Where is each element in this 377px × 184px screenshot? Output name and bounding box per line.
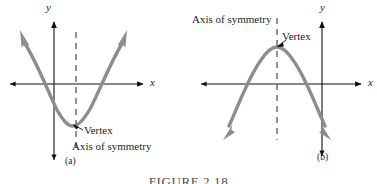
y-axis-label-b: y	[320, 2, 325, 13]
panel-tag-b: (b)	[317, 153, 328, 163]
parabola-curve-b	[223, 47, 331, 140]
figure-container: y x Vertex Axis of symmetry (a)	[0, 0, 377, 184]
y-axis-label-a: y	[46, 2, 51, 13]
parabola-curve-a	[20, 30, 127, 126]
axis-of-symmetry-label-b: Axis of symmetry	[192, 14, 271, 25]
panel-b-parabola-opening-downward: y x Axis of symmetry Vertex (b)	[187, 0, 377, 184]
figure-caption: FIGURE 2.18	[0, 174, 377, 184]
y-axis-a	[51, 22, 56, 160]
panel-tag-a: (a)	[65, 157, 76, 167]
axis-of-symmetry-label-a: Axis of symmetry	[72, 141, 151, 152]
panel-a-graph	[0, 0, 190, 184]
x-axis-a	[10, 81, 143, 86]
x-axis-b	[201, 81, 361, 86]
panel-a-parabola-opening-upward: y x Vertex Axis of symmetry (a)	[0, 0, 190, 184]
x-axis-label-a: x	[150, 77, 155, 88]
x-axis-label-b: x	[368, 77, 373, 88]
y-axis-b	[319, 22, 324, 156]
vertex-label-b: Vertex	[282, 31, 311, 42]
panel-b-graph	[187, 0, 377, 184]
vertex-label-a: Vertex	[84, 125, 113, 136]
